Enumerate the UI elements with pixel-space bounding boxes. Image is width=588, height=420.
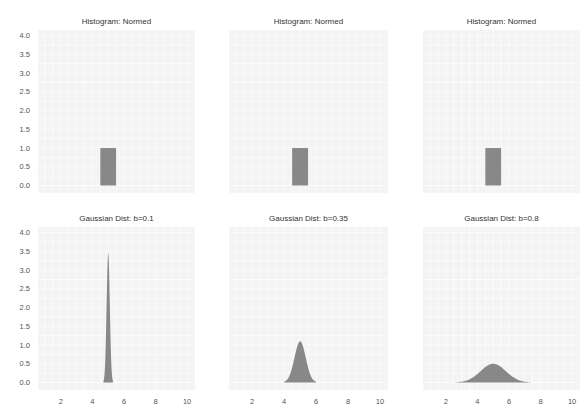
subplot-1: Histogram: Normed0.00.51.01.52.02.53.03.…: [20, 17, 195, 193]
y-tick-label: 0.5: [20, 359, 30, 368]
y-tick-label: 4.0: [20, 31, 30, 40]
y-tick-label: 1.5: [20, 322, 30, 331]
y-tick-label: 0.5: [20, 162, 30, 171]
x-tick-label: 6: [122, 397, 126, 406]
y-tick-label: 3.0: [20, 69, 30, 78]
subplot-2: Histogram: Normed: [229, 17, 388, 193]
histogram-bar: [100, 148, 116, 185]
y-tick-label: 3.5: [20, 247, 30, 256]
subplot-title: Gaussian Dist: b=0.8: [464, 214, 539, 223]
x-tick-label: 6: [314, 397, 318, 406]
x-tick-label: 8: [538, 397, 542, 406]
histogram-bar: [292, 148, 308, 185]
y-tick-label: 1.5: [20, 125, 30, 134]
figure: Histogram: Normed0.00.51.01.52.02.53.03.…: [0, 0, 588, 420]
y-tick-label: 3.0: [20, 266, 30, 275]
y-tick-label: 2.0: [20, 106, 30, 115]
y-tick-label: 1.0: [20, 144, 30, 153]
x-tick-label: 8: [153, 397, 157, 406]
y-tick-label: 0.0: [20, 181, 30, 190]
x-tick-label: 8: [346, 397, 350, 406]
x-tick-label: 10: [183, 397, 191, 406]
x-tick-label: 2: [444, 397, 448, 406]
subplot-title: Gaussian Dist: b=0.1: [79, 214, 154, 223]
x-tick-label: 4: [475, 397, 479, 406]
subplot-title: Gaussian Dist: b=0.35: [269, 214, 348, 223]
subplot-4: Gaussian Dist: b=0.10.00.51.01.52.02.53.…: [20, 214, 195, 406]
subplot-title: Histogram: Normed: [274, 17, 343, 26]
x-tick-label: 10: [376, 397, 384, 406]
subplot-3: Histogram: Normed: [423, 17, 580, 193]
y-tick-label: 2.5: [20, 87, 30, 96]
x-tick-label: 10: [568, 397, 576, 406]
y-tick-label: 0.0: [20, 378, 30, 387]
y-tick-label: 1.0: [20, 341, 30, 350]
y-tick-label: 2.5: [20, 284, 30, 293]
histogram-bar: [485, 148, 501, 185]
subplot-title: Histogram: Normed: [467, 17, 536, 26]
x-tick-label: 6: [507, 397, 511, 406]
y-tick-label: 4.0: [20, 228, 30, 237]
x-tick-label: 2: [59, 397, 63, 406]
y-tick-label: 3.5: [20, 50, 30, 59]
subplot-5: Gaussian Dist: b=0.35246810: [229, 214, 388, 406]
subplot-title: Histogram: Normed: [82, 17, 151, 26]
y-tick-label: 2.0: [20, 303, 30, 312]
x-tick-label: 4: [90, 397, 94, 406]
x-tick-label: 2: [250, 397, 254, 406]
x-tick-label: 4: [282, 397, 286, 406]
subplot-6: Gaussian Dist: b=0.8246810: [423, 214, 580, 406]
